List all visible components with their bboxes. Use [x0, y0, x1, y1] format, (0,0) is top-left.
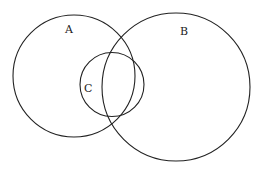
set-b-label: B [180, 25, 188, 38]
set-b-circle [102, 13, 250, 161]
set-a-circle [13, 15, 135, 137]
set-c-label: C [84, 82, 92, 95]
venn-diagram: A B C [0, 0, 260, 172]
set-a-label: A [64, 23, 74, 36]
